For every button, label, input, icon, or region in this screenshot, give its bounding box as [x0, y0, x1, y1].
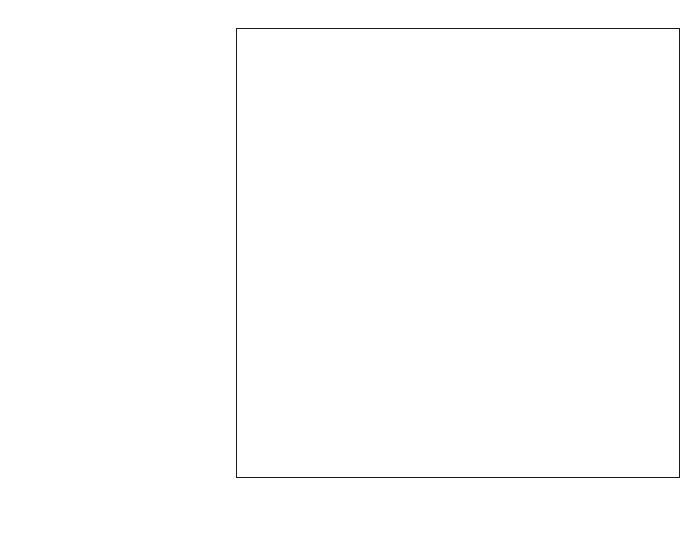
y-axis-category-labels	[0, 0, 228, 560]
plot-area	[236, 28, 680, 478]
sea-level-rise-chart	[0, 0, 700, 560]
